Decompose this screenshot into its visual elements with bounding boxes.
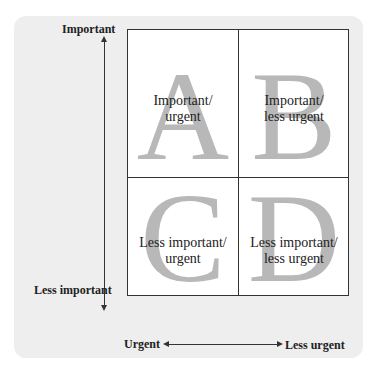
caption-line: urgent [128,251,238,267]
quadrant-d: D Less important/ less urgent [239,178,349,296]
caption-line: Less important/ [128,235,238,251]
vertical-divider [238,30,239,295]
x-axis-left-label: Urgent [124,337,160,352]
horizontal-double-arrow [167,344,279,345]
quadrant-a: A Important/ urgent [128,30,238,177]
caption-line: less urgent [239,251,349,267]
quadrant-caption: Important/ less urgent [239,93,349,125]
y-axis-bottom-label: Less important [34,283,112,298]
caption-line: Important/ [239,93,349,109]
quadrant-caption: Less important/ less urgent [239,235,349,267]
eisenhower-matrix-grid: A Important/ urgent B Important/ less ur… [127,29,349,296]
quadrant-c: C Less important/ urgent [128,178,238,296]
caption-line: Less important/ [239,235,349,251]
caption-line: urgent [128,109,238,125]
caption-line: less urgent [239,109,349,125]
horizontal-divider [128,177,348,178]
vertical-double-arrow [104,40,105,307]
quadrant-caption: Important/ urgent [128,93,238,125]
x-axis-right-label: Less urgent [285,338,345,353]
quadrant-b: B Important/ less urgent [239,30,349,177]
caption-line: Important/ [128,93,238,109]
y-axis-top-label: Important [62,22,115,37]
quadrant-caption: Less important/ urgent [128,235,238,267]
